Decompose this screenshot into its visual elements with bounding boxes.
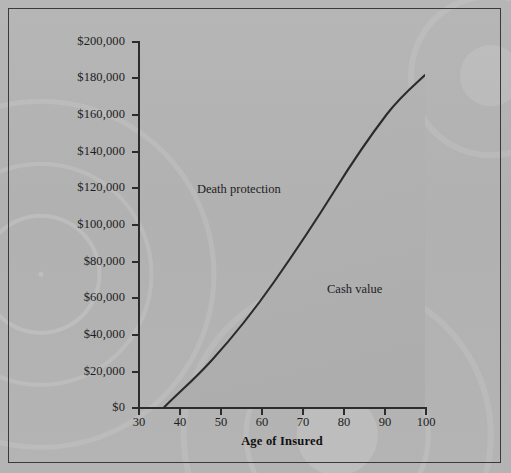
death-protection-label: Death protection xyxy=(197,182,281,197)
y-tick-120000 xyxy=(132,187,138,189)
x-tick-label-80: 80 xyxy=(324,415,364,430)
plot-area: Death protection Cash value xyxy=(139,42,425,408)
y-tick-200000 xyxy=(132,41,138,43)
y-tick-140000 xyxy=(132,151,138,153)
x-tick-label-70: 70 xyxy=(283,415,323,430)
y-tick-60000 xyxy=(132,297,138,299)
x-tick-label-90: 90 xyxy=(365,415,405,430)
x-tick-label-60: 60 xyxy=(242,415,282,430)
y-axis-line xyxy=(138,41,140,410)
y-tick-label-20000: $20,000 xyxy=(30,364,125,379)
cash-value-label: Cash value xyxy=(327,282,382,297)
y-tick-label-40000: $40,000 xyxy=(30,327,125,342)
x-tick-label-100: 100 xyxy=(406,415,446,430)
cash-value-area xyxy=(164,75,426,408)
plot-svg xyxy=(139,42,425,408)
y-tick-40000 xyxy=(132,334,138,336)
y-tick-label-140000: $140,000 xyxy=(30,144,125,159)
y-tick-100000 xyxy=(132,224,138,226)
insurance-cash-value-chart: Death protection Cash value $200,000 $18… xyxy=(0,0,511,473)
y-tick-label-160000: $160,000 xyxy=(30,107,125,122)
x-axis-title: Age of Insured xyxy=(139,434,425,449)
y-tick-180000 xyxy=(132,77,138,79)
x-tick-label-50: 50 xyxy=(201,415,241,430)
y-tick-label-120000: $120,000 xyxy=(30,180,125,195)
y-tick-label-0: $0 xyxy=(30,400,125,415)
y-tick-label-180000: $180,000 xyxy=(30,70,125,85)
y-tick-label-60000: $60,000 xyxy=(30,290,125,305)
y-tick-20000 xyxy=(132,371,138,373)
x-tick-label-40: 40 xyxy=(160,415,200,430)
y-tick-label-80000: $80,000 xyxy=(30,254,125,269)
y-tick-label-200000: $200,000 xyxy=(30,34,125,49)
y-tick-label-100000: $100,000 xyxy=(30,217,125,232)
x-tick-label-30: 30 xyxy=(119,415,159,430)
y-tick-160000 xyxy=(132,114,138,116)
y-tick-80000 xyxy=(132,261,138,263)
